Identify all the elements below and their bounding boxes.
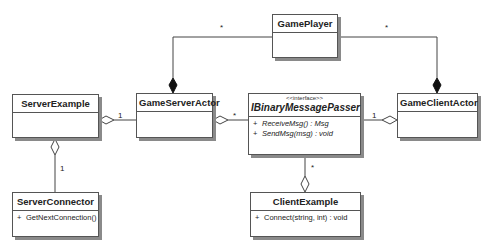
stereotype-label: <<interface>> [251,95,358,102]
operation-item: +GetNextConnection() [17,213,94,223]
class-header: GamePlayer [273,15,337,33]
composition-diamond-icon [433,78,441,93]
operation-signature: Connect(string, int) : void [264,213,347,222]
class-serverexample[interactable]: ServerExample [12,94,99,138]
link-gameplayer-gameclientactor [337,37,437,78]
multiplicity-label: * [233,111,236,120]
operation-signature: ReceiveMsg() : Msg [262,119,329,128]
class-name: GameClientActor [400,97,478,108]
aggregation-diamond-icon [99,116,114,124]
link-gameplayer-gameserveractor [173,37,272,78]
class-header: ServerConnector [13,193,98,211]
operations-list: +GetNextConnection() [13,211,98,225]
aggregation-diamond-icon [382,116,397,124]
class-name: ServerExample [21,98,90,109]
class-header: ServerExample [13,95,98,113]
multiplicity-label: * [385,23,388,32]
class-header: <<interface>> IBinaryMessagePasser [249,94,360,117]
operations-list: +ReceiveMsg() : Msg +SendMsg(msg) : void [249,117,360,140]
operation-item: +Connect(string, int) : void [255,213,356,223]
class-serverconnector[interactable]: ServerConnector +GetNextConnection() [12,192,99,237]
multiplicity-label: * [220,23,223,32]
operations-list: +Connect(string, int) : void [251,211,360,225]
multiplicity-label: * [311,163,314,172]
visibility-marker: + [253,129,262,139]
aggregation-diamond-icon [213,116,228,124]
interface-ibinarymessagepasser[interactable]: <<interface>> IBinaryMessagePasser +Rece… [248,93,361,155]
class-header: GameServerActor [137,94,212,112]
aggregation-diamond-icon [301,176,309,192]
class-gameclientactor[interactable]: GameClientActor [397,93,478,138]
operation-signature: GetNextConnection() [26,213,96,222]
visibility-marker: + [255,213,264,223]
visibility-marker: + [253,119,262,129]
class-gameplayer[interactable]: GamePlayer [272,14,338,58]
class-name: GamePlayer [278,18,333,29]
class-header: GameClientActor [398,94,477,112]
multiplicity-label: 1 [118,111,122,120]
visibility-marker: + [17,213,26,223]
aggregation-diamond-icon [51,139,59,155]
class-clientexample[interactable]: ClientExample +Connect(string, int) : vo… [250,192,361,237]
class-name: GameServerActor [139,97,220,108]
class-name: IBinaryMessagePasser [251,102,360,113]
operation-item: +SendMsg(msg) : void [253,129,356,139]
multiplicity-label: 1 [372,111,376,120]
operation-signature: SendMsg(msg) : void [262,129,333,138]
multiplicity-label: 1 [60,164,64,173]
operation-item: +ReceiveMsg() : Msg [253,119,356,129]
class-name: ClientExample [273,196,338,207]
class-gameserveractor[interactable]: GameServerActor [136,93,213,138]
composition-diamond-icon [169,78,177,93]
class-name: ServerConnector [17,196,94,207]
class-header: ClientExample [251,193,360,211]
